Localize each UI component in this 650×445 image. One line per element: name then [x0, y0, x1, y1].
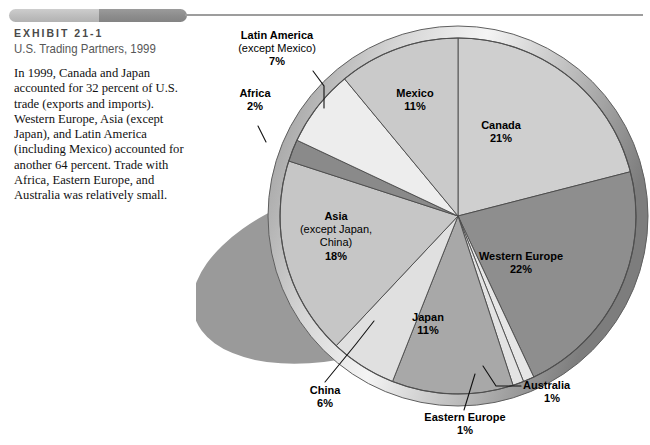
pie-label-eastern-europe-pct: 1%	[457, 424, 473, 436]
pie-label-western-europe-name: Western Europe	[479, 250, 563, 262]
pie-label-latin-america-name: Latin America	[241, 29, 313, 41]
pie-label-asia-sub1: (except Japan,	[300, 223, 372, 235]
pie-label-western-europe: Western Europe 22%	[445, 250, 597, 276]
pie-label-africa-pct: 2%	[247, 100, 263, 112]
exhibit-caption-text: In 1999, Canada and Japan accounted for …	[14, 66, 196, 204]
pie-label-canada-pct: 21%	[490, 132, 512, 144]
pie-label-asia-pct: 18%	[325, 250, 347, 262]
pie-label-mexico-pct: 11%	[404, 100, 425, 112]
pie-label-asia-name: Asia	[324, 210, 347, 222]
pie-label-australia: Australia 1%	[523, 379, 633, 405]
pie-label-latin-america: Latin America (except Mexico) 7%	[192, 29, 362, 69]
pie-label-australia-name: Australia	[523, 379, 570, 391]
pie-label-china: China 6%	[275, 384, 375, 410]
pie-label-japan-pct: 11%	[417, 324, 438, 336]
pie-label-latin-america-sub: (except Mexico)	[238, 42, 316, 54]
pie-label-asia: Asia (except Japan, China) 18%	[268, 210, 404, 263]
rule-segment-light	[9, 9, 99, 22]
pie-label-japan: Japan 11%	[380, 311, 476, 337]
pie-label-eastern-europe: Eastern Europe 1%	[400, 411, 530, 437]
leader-line-africa	[258, 126, 266, 142]
pie-label-canada-name: Canada	[481, 119, 521, 131]
pie-label-latin-america-pct: 7%	[269, 55, 285, 67]
pie-label-mexico-name: Mexico	[396, 87, 433, 99]
pie-label-china-name: China	[310, 384, 341, 396]
rule-segment-dark	[99, 9, 187, 22]
exhibit-title: U.S. Trading Partners, 1999	[14, 41, 156, 56]
pie-label-africa: Africa 2%	[203, 87, 307, 113]
pie-label-africa-name: Africa	[239, 87, 270, 99]
exhibit-figure: EXHIBIT 21-1 U.S. Trading Partners, 1999…	[0, 0, 650, 445]
pie-label-japan-name: Japan	[412, 311, 444, 323]
pie-chart: Latin America (except Mexico) 7% Africa …	[196, 14, 650, 445]
pie-label-canada: Canada 21%	[449, 119, 553, 145]
pie-label-mexico: Mexico 11%	[365, 87, 465, 113]
pie-label-australia-pct: 1%	[523, 392, 581, 405]
pie-label-western-europe-pct: 22%	[510, 263, 532, 275]
pie-label-china-pct: 6%	[317, 397, 333, 409]
exhibit-number: EXHIBIT 21-1	[14, 27, 103, 39]
pie-label-eastern-europe-name: Eastern Europe	[424, 411, 505, 423]
exhibit-rule-bar	[9, 9, 187, 22]
pie-label-asia-sub2: China)	[320, 236, 352, 248]
